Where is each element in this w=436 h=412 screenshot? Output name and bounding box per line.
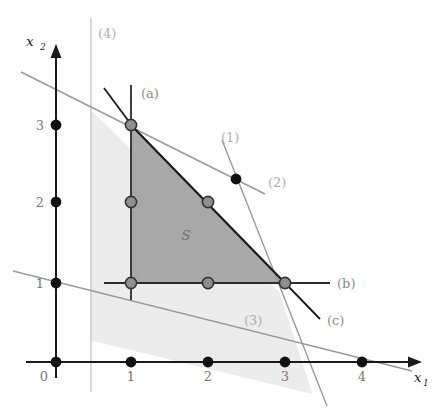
x-axis-arrowhead <box>408 357 422 368</box>
lattice-point-axis <box>51 197 62 208</box>
constraint-label-1: (1) <box>221 130 239 145</box>
lattice-point-region <box>202 277 213 288</box>
diagram-canvas: x 2 x 1 0 1 2 3 4 1 2 3 (4) (1) (2) (3) … <box>0 0 436 412</box>
lattice-point-region <box>279 277 290 288</box>
constraint-label-2: (2) <box>268 175 286 190</box>
y-axis-label: x <box>26 34 34 49</box>
constraint-label-3: (3) <box>244 313 262 328</box>
lattice-point-axis <box>51 120 62 131</box>
y-axis-sublabel: 2 <box>39 42 46 52</box>
annotation-label-c: (c) <box>327 313 344 328</box>
lattice-point-region <box>125 119 136 130</box>
x-tick-label-1: 1 <box>127 369 135 384</box>
lattice-point-region <box>125 277 136 288</box>
y-tick-label-3: 3 <box>36 118 44 133</box>
origin-tick-label: 0 <box>40 369 48 384</box>
x-tick-label-2: 2 <box>204 369 212 384</box>
annotation-label-a: (a) <box>141 86 159 101</box>
lattice-point-axis <box>203 357 214 368</box>
figure-root: x 2 x 1 0 1 2 3 4 1 2 3 (4) (1) (2) (3) … <box>0 0 436 412</box>
lattice-point-axis <box>126 357 137 368</box>
y-tick-label-1: 1 <box>36 276 44 291</box>
x-tick-label-4: 4 <box>358 369 366 384</box>
region-label-S: S <box>182 228 191 243</box>
x-axis-label: x <box>414 370 422 385</box>
x-axis-sublabel: 1 <box>423 378 429 388</box>
intersection-point-1-2 <box>231 174 242 185</box>
y-axis-arrowhead <box>51 44 62 58</box>
annotation-label-b: (b) <box>337 276 355 291</box>
lattice-point-axis <box>51 357 62 368</box>
constraint-label-4: (4) <box>98 26 116 41</box>
y-tick-label-2: 2 <box>36 195 44 210</box>
lattice-point-axis <box>357 357 368 368</box>
lattice-point-axis <box>280 357 291 368</box>
lattice-point-region <box>202 196 213 207</box>
x-tick-label-3: 3 <box>281 369 289 384</box>
lattice-point-region <box>125 196 136 207</box>
lattice-point-axis <box>51 278 62 289</box>
